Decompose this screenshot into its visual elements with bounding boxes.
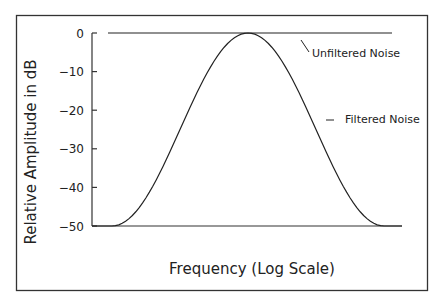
- y-tick-label: 0: [76, 27, 84, 41]
- y-tick-label: −20: [59, 104, 84, 118]
- y-ticks: 0−10−20−30−40−50: [59, 27, 97, 234]
- chart: 0−10−20−30−40−50 Relative Amplitude in d…: [0, 0, 441, 303]
- filtered-noise-curve: [92, 33, 402, 226]
- y-axis-label: Relative Amplitude in dB: [22, 59, 40, 244]
- x-axis-label: Frequency (Log Scale): [169, 260, 335, 278]
- unfiltered-noise-label: Unfiltered Noise: [312, 47, 400, 60]
- unfiltered-noise-pointer: [301, 40, 309, 52]
- y-tick-label: −50: [59, 220, 84, 234]
- y-tick-label: −40: [59, 181, 84, 195]
- y-tick-label: −10: [59, 65, 84, 79]
- y-tick-label: −30: [59, 142, 84, 156]
- filtered-noise-label: Filtered Noise: [345, 113, 420, 126]
